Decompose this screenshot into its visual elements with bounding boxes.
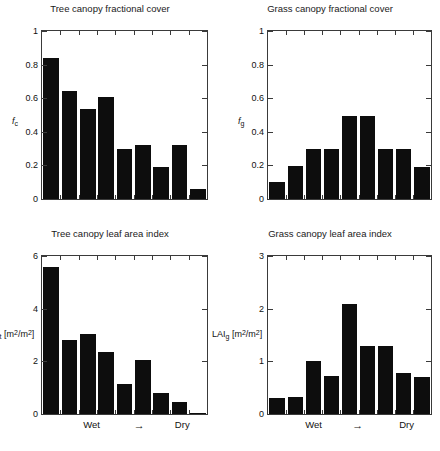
x-tick-bottom [152, 410, 153, 414]
bar [414, 167, 429, 199]
x-tick-bottom [60, 195, 61, 199]
x-tick-top [395, 256, 396, 260]
y-tick-label: 0.4 [25, 127, 38, 136]
y-tick-label: 0.8 [25, 60, 38, 69]
panel-title: Grass canopy fractional cover [220, 3, 440, 15]
x-tick-bottom [134, 195, 135, 199]
y-tick [42, 98, 47, 99]
x-tick-bottom [170, 410, 171, 414]
y-tick-label: 0.6 [251, 94, 264, 103]
bar [80, 334, 95, 414]
x-tick-bottom [115, 410, 116, 414]
y-tick-mirror [202, 199, 207, 200]
y-tick [42, 256, 47, 257]
bar-series-grass-lai [268, 256, 431, 414]
y-tick [268, 98, 273, 99]
y-tick-label: 1 [259, 27, 264, 36]
y-tick-label: 0.8 [251, 60, 264, 69]
x-tick-bottom [304, 195, 305, 199]
y-tick-mirror [426, 132, 431, 133]
x-tick-top [189, 31, 190, 35]
bar [62, 91, 77, 199]
y-tick [268, 361, 273, 362]
y-tick-label: 1 [33, 27, 38, 36]
bar [62, 340, 77, 414]
x-tick-bottom [413, 195, 414, 199]
axis-label-y: fg [238, 116, 244, 129]
x-tick-bottom [189, 410, 190, 414]
y-tick-label: 4 [33, 304, 38, 313]
plot-area-tree-fc: fc 00.20.40.60.81 [41, 30, 208, 200]
y-tick-label: 0.2 [251, 161, 264, 170]
x-label-dry: Dry [399, 419, 414, 431]
x-tick-bottom [377, 410, 378, 414]
y-tick-mirror [426, 98, 431, 99]
y-tick [268, 132, 273, 133]
bar [117, 149, 132, 199]
bar [269, 398, 284, 414]
axis-label-y: LAIt [m2/m2] [0, 328, 34, 342]
x-tick-top [115, 31, 116, 35]
y-tick-label: 2 [33, 357, 38, 366]
bar [135, 360, 150, 414]
x-tick-top [413, 256, 414, 260]
bar [288, 397, 303, 414]
y-tick-mirror [426, 65, 431, 66]
arrow-right-icon: → [352, 419, 363, 431]
bar [43, 267, 58, 414]
bar [378, 149, 393, 199]
x-tick-top [60, 31, 61, 35]
y-tick-mirror [426, 414, 431, 415]
y-tick-label: 2 [259, 304, 264, 313]
x-tick-top [134, 31, 135, 35]
y-tick [268, 199, 273, 200]
y-tick [42, 199, 47, 200]
bar-series-tree-fc [42, 31, 207, 199]
bar [396, 373, 411, 414]
panel-tree-lai: Tree canopy leaf area index LAIt [m2/m2]… [0, 225, 220, 451]
y-tick-mirror [426, 165, 431, 166]
y-tick-label: 3 [259, 252, 264, 261]
x-tick-top [340, 256, 341, 260]
y-tick-mirror [426, 256, 431, 257]
y-tick-label: 0 [259, 195, 264, 204]
bar [117, 384, 132, 414]
y-tick [42, 31, 47, 32]
x-tick-top [377, 31, 378, 35]
axis-label-y: LAIg [m2/m2] [212, 328, 262, 342]
y-tick-label: 0.4 [251, 127, 264, 136]
x-tick-bottom [322, 195, 323, 199]
x-tick-bottom [322, 410, 323, 414]
y-tick-label: 0.2 [25, 161, 38, 170]
x-tick-bottom [304, 410, 305, 414]
arrow-right-icon: → [134, 419, 145, 431]
axis-label-y: fc [12, 116, 18, 129]
y-tick-mirror [202, 98, 207, 99]
y-tick-mirror [202, 361, 207, 362]
bar [269, 182, 284, 199]
x-tick-top [60, 256, 61, 260]
bar [360, 116, 375, 199]
y-tick [42, 65, 47, 66]
x-axis-labels: Wet → Dry [42, 419, 207, 433]
x-axis-labels: Wet → Dry [268, 419, 431, 433]
y-tick-label: 0 [33, 195, 38, 204]
bar [324, 376, 339, 414]
y-tick-mirror [202, 65, 207, 66]
x-tick-top [413, 31, 414, 35]
x-tick-bottom [115, 195, 116, 199]
x-tick-top [359, 31, 360, 35]
x-tick-bottom [359, 195, 360, 199]
x-tick-top [170, 31, 171, 35]
plot-area-tree-lai: LAIt [m2/m2] Wet → Dry 0246 [41, 255, 208, 415]
x-tick-bottom [395, 410, 396, 414]
x-tick-bottom [79, 195, 80, 199]
x-label-dry: Dry [175, 419, 190, 431]
y-tick-mirror [426, 309, 431, 310]
x-tick-top [322, 31, 323, 35]
x-tick-bottom [395, 195, 396, 199]
panel-title: Grass canopy leaf area index [220, 228, 440, 240]
x-tick-top [79, 31, 80, 35]
x-tick-top [286, 31, 287, 35]
x-tick-bottom [413, 410, 414, 414]
